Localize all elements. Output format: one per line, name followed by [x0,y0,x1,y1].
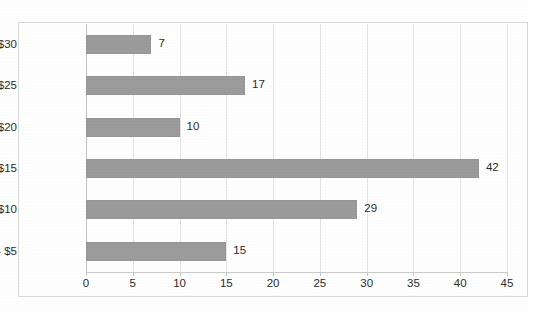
x-tick-label: 10 [173,277,186,289]
tickmark-25 [320,272,321,276]
bar[interactable] [86,76,245,95]
bar-value-label: 10 [187,117,200,136]
tickmark-5 [133,272,134,276]
bar-value-label: 29 [364,199,377,218]
bar-row[interactable]: 42 [86,148,507,189]
x-axis-tick-labels: 051015202530354045 [86,277,508,295]
x-tick-label: 45 [501,277,514,289]
category-label: $10 - $15 [0,159,17,178]
category-axis: $0 - $5$5 - $10$10 - $15$15 - $20$20 - $… [0,24,17,272]
bar-row[interactable]: 17 [86,65,507,106]
bar-row[interactable]: 7 [86,24,507,65]
bar-value-label: 17 [252,75,265,94]
tickmark-10 [180,272,181,276]
category-label: $20 - $25 [0,76,17,95]
x-tick-label: 5 [130,277,136,289]
bar-row[interactable]: 15 [86,231,507,272]
x-tick-label: 35 [407,277,420,289]
tickmark-15 [226,272,227,276]
bar-row[interactable]: 10 [86,107,507,148]
category-label: $15 - $20 [0,118,17,137]
bar[interactable] [86,118,180,137]
category-label: $5 - $10 [0,200,17,219]
tickmark-20 [273,272,274,276]
tickmark-30 [367,272,368,276]
bar[interactable] [86,159,479,178]
x-tick-label: 0 [83,277,89,289]
bar-value-label: 7 [158,34,164,53]
bar[interactable] [86,242,226,261]
x-tick-label: 20 [267,277,280,289]
bar-row[interactable]: 29 [86,189,507,230]
category-label: $0 - $5 [0,242,17,261]
tickmark-40 [460,272,461,276]
x-tick-label: 25 [313,277,326,289]
bar-value-label: 15 [233,241,246,260]
plot-area: 15294210177 [86,24,507,272]
bar-value-label: 42 [486,158,499,177]
bar[interactable] [86,200,357,219]
tickmark-0 [86,272,87,276]
category-label: $25 - $30 [0,35,17,54]
clipped-header-text [18,0,498,4]
x-tick-label: 30 [360,277,373,289]
x-axis-line [86,272,508,273]
tickmark-35 [413,272,414,276]
x-tick-label: 15 [220,277,233,289]
bar[interactable] [86,35,151,54]
tickmark-45 [507,272,508,276]
x-tick-label: 40 [454,277,467,289]
gridline-45 [507,24,508,272]
chart-frame: 15294210177 $0 - $5$5 - $10$10 - $15$15 … [18,22,528,297]
